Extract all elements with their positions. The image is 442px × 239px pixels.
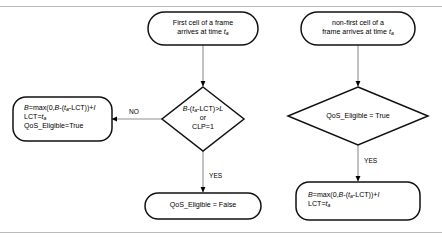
- edge-label-yes-left: YES: [209, 172, 222, 179]
- terminal-end-qos-false: [145, 193, 261, 219]
- edge-label-yes-right: YES: [364, 157, 377, 164]
- edge-label-no: NO: [129, 108, 139, 115]
- process-update-conforming: [13, 97, 112, 141]
- process-update-non-first: [296, 182, 420, 220]
- terminal-start-first-cell: [148, 12, 258, 45]
- terminal-start-non-first-cell: [301, 12, 415, 45]
- decision-qos-eligible: [288, 87, 428, 145]
- flowchart-diagram: First cell of a frame arrives at time ta…: [0, 0, 442, 239]
- decision-bucket: [162, 87, 244, 151]
- flowchart-canvas: [0, 0, 442, 239]
